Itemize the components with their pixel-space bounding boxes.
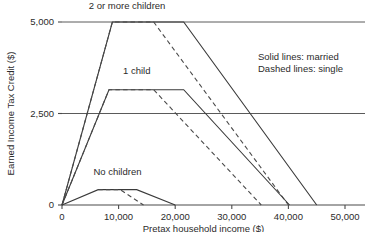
- y-tick-label-5000: 5,000: [30, 16, 54, 27]
- chart-canvas: 010,00020,00030,00040,00050,00002,5005,0…: [0, 0, 377, 232]
- series-line-5: [98, 190, 143, 205]
- x-tick-label-0: 0: [59, 211, 64, 222]
- series-line-2: [62, 90, 290, 205]
- annotation-1: 1 child: [123, 65, 150, 76]
- x-tick-label-30000: 30,000: [217, 211, 246, 222]
- annotation-0: 2 or more children: [89, 0, 166, 11]
- y-tick-label-0: 0: [49, 199, 54, 210]
- legend-entry-0: Solid lines: married: [258, 51, 339, 62]
- x-tick-label-20000: 20,000: [161, 211, 190, 222]
- x-tick-label-40000: 40,000: [274, 211, 303, 222]
- series-line-4: [62, 190, 175, 205]
- x-axis-title: Pretax household income ($): [143, 223, 264, 232]
- x-tick-label-50000: 50,000: [330, 211, 359, 222]
- series-line-3: [62, 90, 261, 205]
- y-axis-title: Earned Income Tax Credit ($): [5, 52, 16, 176]
- y-tick-label-2500: 2,500: [30, 108, 54, 119]
- annotation-2: No children: [93, 166, 141, 177]
- eitc-chart: 010,00020,00030,00040,00050,00002,5005,0…: [0, 0, 377, 232]
- legend-entry-1: Dashed lines: single: [258, 63, 343, 74]
- x-tick-label-10000: 10,000: [104, 211, 133, 222]
